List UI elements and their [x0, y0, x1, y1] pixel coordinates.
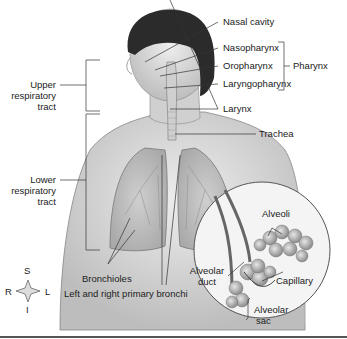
label-pharynx: Pharynx [293, 60, 328, 71]
label-upper-tract-1: Upper [30, 79, 56, 90]
compass-left: L [45, 286, 50, 297]
label-upper-tract-3: tract [38, 101, 56, 112]
compass-rose-icon [16, 280, 40, 302]
label-lower-tract-2: respiratory [11, 185, 56, 196]
compass-inferior: I [26, 304, 29, 315]
label-lower-tract-1: Lower [30, 174, 56, 185]
label-trachea: Trachea [259, 128, 294, 139]
label-alveolar-sac-2: sac [256, 315, 271, 326]
label-alveoli: Alveoli [262, 208, 290, 219]
label-capillary: Capillary [276, 275, 313, 286]
compass-superior: S [24, 265, 30, 276]
label-laryngopharynx: Laryngopharynx [223, 78, 291, 89]
label-primary-bronchi: Left and right primary bronchi [64, 288, 188, 299]
label-alveolar-sac-1: Alveolar [254, 304, 288, 315]
label-lower-tract-3: tract [38, 196, 56, 207]
label-nasal-cavity: Nasal cavity [223, 16, 274, 27]
label-nasopharynx: Nasopharynx [223, 42, 279, 53]
label-upper-tract-2: respiratory [11, 90, 56, 101]
label-bronchioles: Bronchioles [82, 273, 132, 284]
label-oropharynx: Oropharynx [223, 60, 273, 71]
label-alveolar-duct-2: duct [188, 276, 226, 287]
compass-right: R [5, 286, 12, 297]
label-alveolar-duct-1: Alveolar [188, 265, 226, 276]
alveoli-magnified-inset [194, 182, 330, 318]
label-larynx: Larynx [223, 103, 252, 114]
